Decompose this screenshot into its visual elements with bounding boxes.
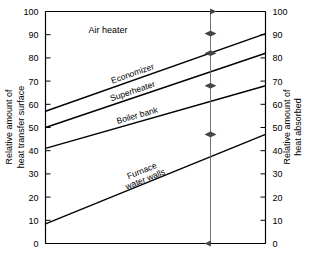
right-tick-label: 70 bbox=[273, 77, 283, 87]
right-tick-label: 40 bbox=[273, 146, 283, 156]
chart-container: 0102030405060708090100 01020304050607080… bbox=[0, 0, 311, 264]
left-tick-label: 80 bbox=[28, 53, 38, 63]
right-tick-label: 50 bbox=[273, 123, 283, 133]
left-tick-label: 50 bbox=[28, 123, 38, 133]
left-tick-label: 20 bbox=[28, 193, 38, 203]
left-tick-label: 60 bbox=[28, 100, 38, 110]
right-axis-title-line1: Relative amount of bbox=[282, 89, 292, 165]
right-tick-label: 90 bbox=[273, 30, 283, 40]
right-tick-label: 20 bbox=[273, 193, 283, 203]
right-axis-title: Relative amount of heat absorbed bbox=[282, 89, 303, 165]
heat-transfer-chart: 0102030405060708090100 01020304050607080… bbox=[0, 0, 311, 264]
left-tick-label: 30 bbox=[28, 169, 38, 179]
left-tick-label: 10 bbox=[28, 216, 38, 226]
left-tick-label: 40 bbox=[28, 146, 38, 156]
right-tick-label: 30 bbox=[273, 169, 283, 179]
right-tick-label: 80 bbox=[273, 53, 283, 63]
left-axis-title-line1: Relative amount of bbox=[4, 89, 14, 165]
left-tick-label: 70 bbox=[28, 77, 38, 87]
left-axis-title-line2: heat transfer surface bbox=[16, 86, 26, 169]
right-tick-label: 0 bbox=[273, 239, 278, 249]
right-tick-label: 60 bbox=[273, 100, 283, 110]
annotation-air-heater: Air heater bbox=[88, 25, 127, 35]
left-tick-label: 100 bbox=[23, 7, 38, 17]
right-axis-title-line2: heat absorbed bbox=[293, 98, 303, 156]
right-tick-label: 100 bbox=[273, 7, 288, 17]
right-tick-label: 10 bbox=[273, 216, 283, 226]
chart-background bbox=[0, 0, 311, 264]
left-tick-label: 90 bbox=[28, 30, 38, 40]
left-tick-label: 0 bbox=[33, 239, 38, 249]
